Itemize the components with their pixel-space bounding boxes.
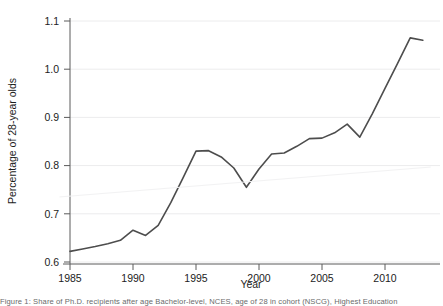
x-axis-ticks-group: 198519901995200020052010 [58,264,397,284]
y-tick-label: 1.0 [44,63,59,75]
x-tick-label: 1990 [121,272,145,284]
y-axis-ticks-group: 0.60.70.80.91.01.1 [44,15,70,268]
y-axis-title: Percentage of 28-year olds [6,78,18,204]
y-tick-label: 1.1 [44,15,59,27]
x-tick-label: 2010 [373,272,397,284]
figure-caption: Figure 1: Share of Ph.D. recipients afte… [0,297,443,306]
y-tick-label: 0.7 [44,208,59,220]
data-series-group [60,38,430,252]
y-tick-label: 0.6 [44,256,59,268]
series-line-percentage-of-28-year-olds [70,38,423,252]
y-tick-label: 0.9 [44,111,59,123]
y-tick-label: 0.8 [44,159,59,171]
gridlines-group [70,21,440,262]
x-axis-title: Year [240,278,262,290]
x-tick-label: 1995 [184,272,208,284]
x-tick-label: 1985 [58,272,82,284]
x-tick-label: 2005 [310,272,334,284]
series-line-linear-trend [60,167,430,197]
